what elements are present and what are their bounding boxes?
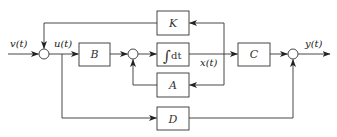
- block-d-label: D: [168, 113, 178, 126]
- block-k-label: K: [168, 17, 178, 30]
- x-to-k-line: [190, 23, 225, 54]
- summing-junction-3: [288, 49, 298, 59]
- block-c-label: C: [250, 48, 259, 61]
- block-a-label: A: [168, 79, 177, 92]
- u-label: u(t): [54, 38, 72, 49]
- a-to-sum2-line: [133, 60, 157, 86]
- input-label: v(t): [10, 38, 28, 49]
- block-b-label: B: [89, 48, 98, 61]
- block-diagram: v(t) u(t) B ∫ dt x(t) K A D C y(t): [0, 0, 337, 137]
- summing-junction-1: [39, 49, 49, 59]
- x-label: x(t): [200, 57, 218, 68]
- integral-icon: ∫: [163, 47, 171, 65]
- d-to-sum3-line: [189, 60, 293, 119]
- integrator-label: dt: [171, 50, 181, 61]
- output-label: y(t): [304, 38, 323, 49]
- summing-junction-2: [128, 49, 138, 59]
